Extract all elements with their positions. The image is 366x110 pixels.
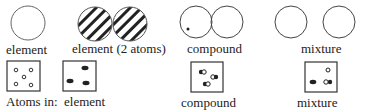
mixture-box [305,62,337,92]
label-compound: compound [187,42,242,55]
mixture-circle-1 [275,6,307,38]
label-bottom-compound: compound [181,96,236,109]
compound-circle-1 [180,6,212,38]
label-bottom-mixture: mixture [297,96,337,109]
label-element: element [6,43,47,56]
element-atom-2-circle [113,7,147,41]
element-molecules-box [63,61,96,91]
label-atoms-in: Atoms in: [6,95,58,108]
element-circle [11,6,45,40]
element-atom-1-circle [78,7,112,41]
label-mixture: mixture [301,42,341,55]
element-atoms-box [7,61,40,91]
compound-circle-2 [211,6,243,38]
label-bottom-element: element [64,95,105,108]
mixture-circle-2 [323,6,355,38]
label-element-2-atoms: element (2 atoms) [72,42,166,55]
compound-dot [187,28,190,31]
